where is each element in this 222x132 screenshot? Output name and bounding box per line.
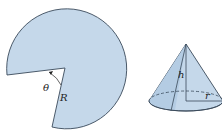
radius-R-label: R [59, 92, 68, 103]
circular-sector [7, 9, 127, 129]
height-h-label: h [178, 69, 184, 80]
theta-label: θ [43, 82, 49, 93]
cone [149, 44, 222, 111]
diagram-canvas: θ R h r [0, 0, 222, 132]
